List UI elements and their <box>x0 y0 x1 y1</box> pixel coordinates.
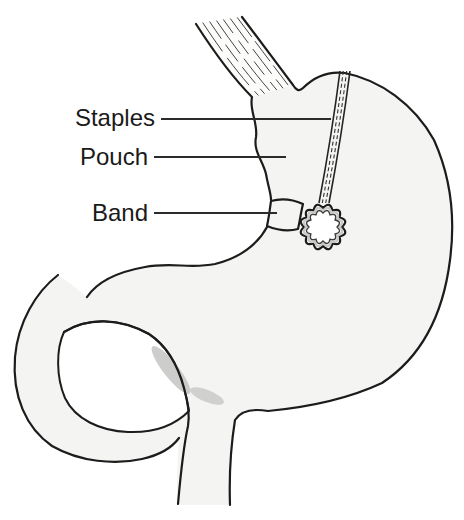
stoma-ring <box>301 205 346 250</box>
figure-canvas: Staples Pouch Band <box>0 0 464 520</box>
label-pouch: Pouch <box>80 143 148 170</box>
gastroplasty-diagram: Staples Pouch Band <box>0 0 464 520</box>
label-band: Band <box>92 199 148 226</box>
esophagus-lumen <box>196 17 293 97</box>
label-staples: Staples <box>75 104 155 131</box>
